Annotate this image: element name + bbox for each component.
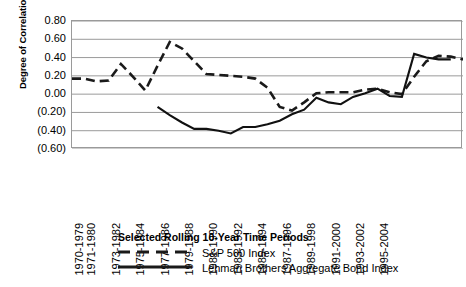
x-axis-tick-label: 1970-1979 [71, 223, 82, 276]
legend-label: Lehman Brothers Aggregate Bond Index [202, 261, 398, 276]
plot-area [71, 20, 462, 148]
legend-title: Selected Rolling 10-Year Time Periods [118, 231, 458, 244]
x-axis-tick-labels: 1970-19791971-19801973-19821975-19841977… [71, 149, 462, 227]
legend-swatch-dashed [118, 250, 192, 254]
y-axis-tick-label: 0.80 [18, 15, 66, 26]
y-axis-tick-label: (0.20) [18, 106, 66, 117]
y-axis-tick-label: (0.40) [18, 125, 66, 136]
legend-item: S&P 500 Index [118, 244, 458, 259]
y-axis-tick-label: 0.20 [18, 70, 66, 81]
legend-swatch-solid [118, 265, 192, 269]
chart-figure: Degree of Correlation 0.800.600.400.200.… [0, 0, 466, 287]
y-axis-tick-label: 0.00 [18, 88, 66, 99]
x-axis-tick-label-text: 1971-1980 [86, 223, 97, 276]
series-lines [72, 42, 463, 133]
chart-legend: Selected Rolling 10-Year Time Periods S&… [118, 231, 458, 274]
legend-item: Lehman Brothers Aggregate Bond Index [118, 259, 458, 274]
y-axis-tick-label: 0.60 [18, 33, 66, 44]
y-axis-tick-label: (0.60) [18, 143, 66, 154]
x-axis-tick-label: 1971-1980 [83, 223, 94, 276]
chart-canvas [72, 21, 463, 149]
x-axis-tick-label: 1973-1982 [108, 223, 119, 276]
legend-items: S&P 500 IndexLehman Brothers Aggregate B… [118, 244, 458, 274]
y-axis-tick-label: 0.40 [18, 52, 66, 63]
